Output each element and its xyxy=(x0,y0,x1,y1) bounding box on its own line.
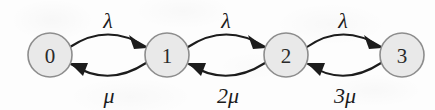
node-2-label: 2 xyxy=(281,44,292,68)
state-transition-diagram: 0 1 2 3 λ λ λ μ 2μ 3μ xyxy=(0,0,435,110)
arrow-head-1-to-2 xyxy=(248,35,266,49)
edge-1-to-2 xyxy=(188,35,266,50)
arrow-head-3-to-2 xyxy=(307,63,325,76)
rate-label-1-to-2: λ xyxy=(220,8,231,33)
node-1-label: 1 xyxy=(162,44,173,68)
node-3[interactable]: 3 xyxy=(380,33,424,77)
edge-3-to-2 xyxy=(307,63,381,76)
node-0-label: 0 xyxy=(45,44,56,68)
node-2[interactable]: 2 xyxy=(264,33,308,77)
node-1[interactable]: 1 xyxy=(145,33,189,77)
edge-1-to-0 xyxy=(70,63,146,76)
rate-label-2-to-1: 2μ xyxy=(217,83,239,108)
arrow-head-0-to-1 xyxy=(129,35,147,49)
node-0[interactable]: 0 xyxy=(28,33,72,77)
arrow-head-2-to-3 xyxy=(364,35,382,49)
arrow-head-1-to-0 xyxy=(70,63,88,76)
edge-2-to-1 xyxy=(188,63,265,76)
rate-label-1-to-0: μ xyxy=(102,83,114,108)
rate-label-0-to-1: λ xyxy=(102,8,113,33)
graph-canvas: 0 1 2 3 λ λ λ μ 2μ 3μ xyxy=(0,0,435,110)
rate-label-2-to-3: λ xyxy=(337,8,348,33)
rate-label-3-to-2: 3μ xyxy=(333,83,356,108)
edge-0-to-1 xyxy=(70,35,147,50)
edge-2-to-3 xyxy=(307,35,382,50)
arrow-head-2-to-1 xyxy=(188,63,206,76)
node-3-label: 3 xyxy=(397,44,408,68)
